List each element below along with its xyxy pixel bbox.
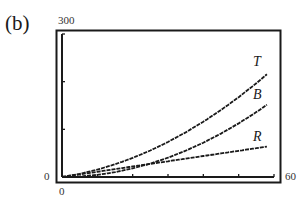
curve-R [62,147,267,177]
curves [62,74,267,177]
curve-B [62,105,267,177]
curve-label-B: B [253,87,262,102]
curve-labels: TBR [252,54,262,143]
axes [62,34,274,177]
outer-frame [57,31,281,183]
curve-label-T: T [253,54,262,69]
chart-plot: TBR [0,0,298,205]
curve-label-R: R [252,129,262,144]
